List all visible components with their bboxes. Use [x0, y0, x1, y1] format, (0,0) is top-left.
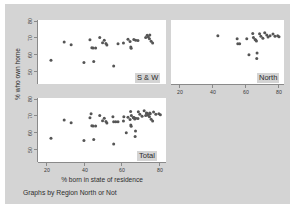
data-point [82, 61, 85, 64]
panel-total-y-axis [37, 98, 38, 162]
data-point [136, 117, 139, 120]
panel-total-ytick-label-50: 50 [27, 143, 33, 157]
data-point [154, 113, 157, 116]
data-point [129, 110, 132, 113]
y-axis-title: % who own home [14, 14, 22, 134]
panel-total-xtick-20 [46, 163, 47, 166]
panel-total-ytick-60 [34, 132, 37, 133]
panel-sw-ytick-50 [34, 71, 37, 72]
data-point [238, 42, 241, 45]
data-point [117, 120, 120, 123]
data-point [130, 47, 133, 50]
data-point [63, 41, 66, 44]
data-point [98, 36, 101, 39]
data-point [148, 115, 151, 118]
data-point [70, 43, 73, 46]
figure-caption: Graphs by Region North or Not [23, 189, 117, 197]
data-point [278, 35, 281, 38]
data-point [94, 124, 97, 127]
data-point [92, 60, 95, 63]
panel-sw-ytick-label-80: 80 [27, 14, 33, 28]
panel-label-s-and-w: S & W [135, 73, 160, 83]
panel-north-xtick-80 [278, 85, 279, 88]
panel-sw-ytick-60 [34, 54, 37, 55]
panel-total-xtick-label-40: 40 [79, 167, 91, 173]
data-point [255, 39, 258, 42]
data-point [101, 41, 104, 44]
data-point [125, 131, 128, 134]
panel-north-xtick-label-20: 20 [174, 89, 186, 95]
data-point [92, 138, 95, 141]
data-point [269, 34, 272, 37]
panel-label-north: North [257, 73, 279, 83]
graph-figure: % who own home 80 70 60 50 S & W 20 40 6… [5, 4, 290, 204]
data-point [151, 42, 154, 45]
panel-total-ytick-70 [34, 115, 37, 116]
data-point [256, 52, 259, 55]
data-point [88, 116, 91, 119]
data-point [111, 115, 114, 118]
data-point [134, 135, 137, 138]
data-point [130, 125, 133, 128]
panel-sw-y-axis [37, 20, 38, 84]
data-point [103, 39, 106, 42]
x-axis-title: % born in state of residence [42, 176, 162, 184]
data-point [261, 37, 264, 40]
data-point [151, 120, 154, 123]
panel-total-xtick-label-60: 60 [116, 167, 128, 173]
data-point [149, 112, 152, 115]
data-point [274, 35, 277, 38]
panel-sw-ytick-80 [34, 21, 37, 22]
panel-north-xtick-20 [179, 85, 180, 88]
panel-total-xtick-label-20: 20 [41, 167, 53, 173]
data-point [90, 112, 93, 115]
data-point [247, 53, 250, 56]
data-point [126, 116, 129, 119]
data-point [143, 109, 146, 112]
data-point [129, 40, 132, 43]
data-point [103, 117, 106, 120]
data-point [101, 119, 104, 122]
panel-total-xtick-80 [159, 163, 160, 166]
panel-total-ytick-label-70: 70 [27, 109, 33, 123]
data-point [70, 121, 73, 124]
panel-total-ytick-label-80: 80 [27, 92, 33, 106]
data-point [129, 118, 132, 121]
data-point [122, 115, 125, 118]
data-point [49, 59, 52, 62]
panel-north-x-axis [171, 84, 284, 85]
data-point [159, 113, 162, 116]
data-point [148, 33, 151, 36]
panel-total-xtick-40 [84, 163, 85, 166]
data-point [112, 143, 115, 146]
panel-north-xtick-label-40: 40 [207, 89, 219, 95]
panel-sw-ytick-label-60: 60 [27, 48, 33, 62]
data-point [148, 37, 151, 40]
data-point [117, 42, 120, 45]
panel-total-x-axis [38, 162, 166, 163]
data-point [94, 46, 97, 49]
data-point [137, 110, 140, 113]
panel-sw-ytick-label-70: 70 [27, 31, 33, 45]
panel-total-ytick-label-60: 60 [27, 126, 33, 140]
data-point [236, 37, 239, 40]
panel-north-xtick-60 [245, 85, 246, 88]
data-point [82, 139, 85, 142]
data-point [112, 65, 115, 68]
data-point [98, 114, 101, 117]
data-point [272, 33, 275, 36]
panel-north-xtick-40 [212, 85, 213, 88]
panel-total-ytick-80 [34, 99, 37, 100]
panel-sw-ytick-70 [34, 37, 37, 38]
data-point [216, 34, 219, 37]
panel-sw-ytick-label-50: 50 [27, 65, 33, 79]
panel-total-xtick-60 [121, 163, 122, 166]
data-point [49, 137, 52, 140]
data-point [105, 43, 108, 46]
data-point [122, 120, 125, 123]
panel-north-xtick-label-60: 60 [240, 89, 252, 95]
data-point [136, 39, 139, 42]
data-point [126, 38, 129, 41]
data-point [88, 38, 91, 41]
panel-label-total: Total [137, 151, 157, 161]
